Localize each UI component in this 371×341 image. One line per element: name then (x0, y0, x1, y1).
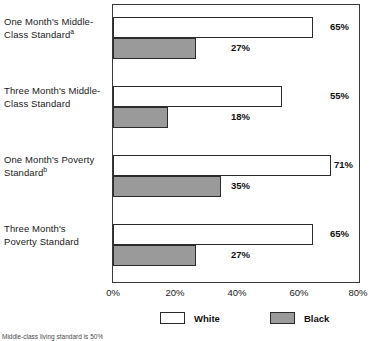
chart-legend: White Black (160, 310, 371, 328)
bar-black-0 (113, 38, 196, 59)
value-label-white-2: 71% (334, 154, 353, 175)
xtick-label-2: 40% (227, 287, 246, 298)
xtick-label-0: 0% (106, 287, 120, 298)
value-label-black-0: 27% (231, 37, 250, 58)
footnote-mark-a: a (70, 27, 74, 34)
category-label-1-line-0: Three Month's Middle- (4, 85, 100, 96)
xtick-label-1: 20% (165, 287, 184, 298)
value-label-black-3: 27% (231, 244, 250, 265)
legend-item-black: Black (270, 310, 329, 326)
bar-black-3 (113, 245, 196, 266)
legend-swatch-black-icon (270, 312, 295, 324)
category-label-3: Three Month's Poverty Standard (4, 223, 110, 248)
footnote-mark-b: b (43, 165, 47, 172)
value-label-white-1: 55% (330, 85, 349, 106)
category-label-1: Three Month's Middle- Class Standard (4, 85, 110, 110)
value-label-black-1: 18% (231, 106, 250, 127)
category-label-2-line-1: Standard (4, 167, 43, 178)
xtick-label-3: 60% (289, 287, 308, 298)
bar-white-0 (113, 17, 313, 38)
category-label-0-line-1: Class Standard (4, 29, 70, 40)
category-label-1-line-1: Class Standard (4, 98, 70, 109)
category-label-3-line-1: Poverty Standard (4, 236, 79, 247)
value-label-white-3: 65% (330, 223, 349, 244)
legend-label-black: Black (304, 313, 329, 324)
bar-black-2 (113, 176, 221, 197)
legend-label-white: White (194, 313, 220, 324)
bar-white-2 (113, 155, 331, 176)
category-label-3-line-0: Three Month's (4, 223, 66, 234)
legend-swatch-white-icon (160, 312, 185, 324)
category-label-2-line-0: One Month's Poverty (4, 154, 94, 165)
chart-footnote: Middle-class living standard is 50% (2, 333, 103, 341)
category-label-0-line-0: One Month's Middle- (4, 16, 93, 27)
xtick-label-4: 80% (348, 287, 367, 298)
bar-white-3 (113, 224, 313, 245)
category-label-2: One Month's Poverty Standardb (4, 154, 110, 179)
bar-white-1 (113, 86, 282, 107)
bar-chart-figure: One Month's Middle- Class Standarda Thre… (0, 0, 371, 341)
legend-item-white: White (160, 310, 220, 326)
bar-black-1 (113, 107, 168, 128)
category-label-0: One Month's Middle- Class Standarda (4, 16, 110, 41)
value-label-black-2: 35% (231, 175, 250, 196)
value-label-white-0: 65% (330, 16, 349, 37)
